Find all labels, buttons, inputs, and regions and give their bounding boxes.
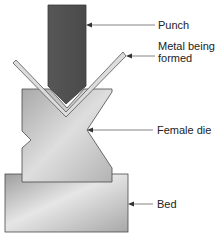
punch <box>48 5 86 104</box>
label-female-die: Female die <box>157 124 211 136</box>
press-brake-diagram <box>0 0 221 242</box>
leader-bed <box>128 202 153 207</box>
label-metal-line2: formed <box>158 52 192 64</box>
label-metal-line1: Metal being <box>158 40 215 52</box>
label-bed: Bed <box>157 198 177 210</box>
leader-punch <box>86 23 155 28</box>
leader-female-die <box>87 128 153 133</box>
bed <box>5 174 128 232</box>
leader-metal <box>126 54 155 59</box>
label-punch: Punch <box>158 19 189 31</box>
